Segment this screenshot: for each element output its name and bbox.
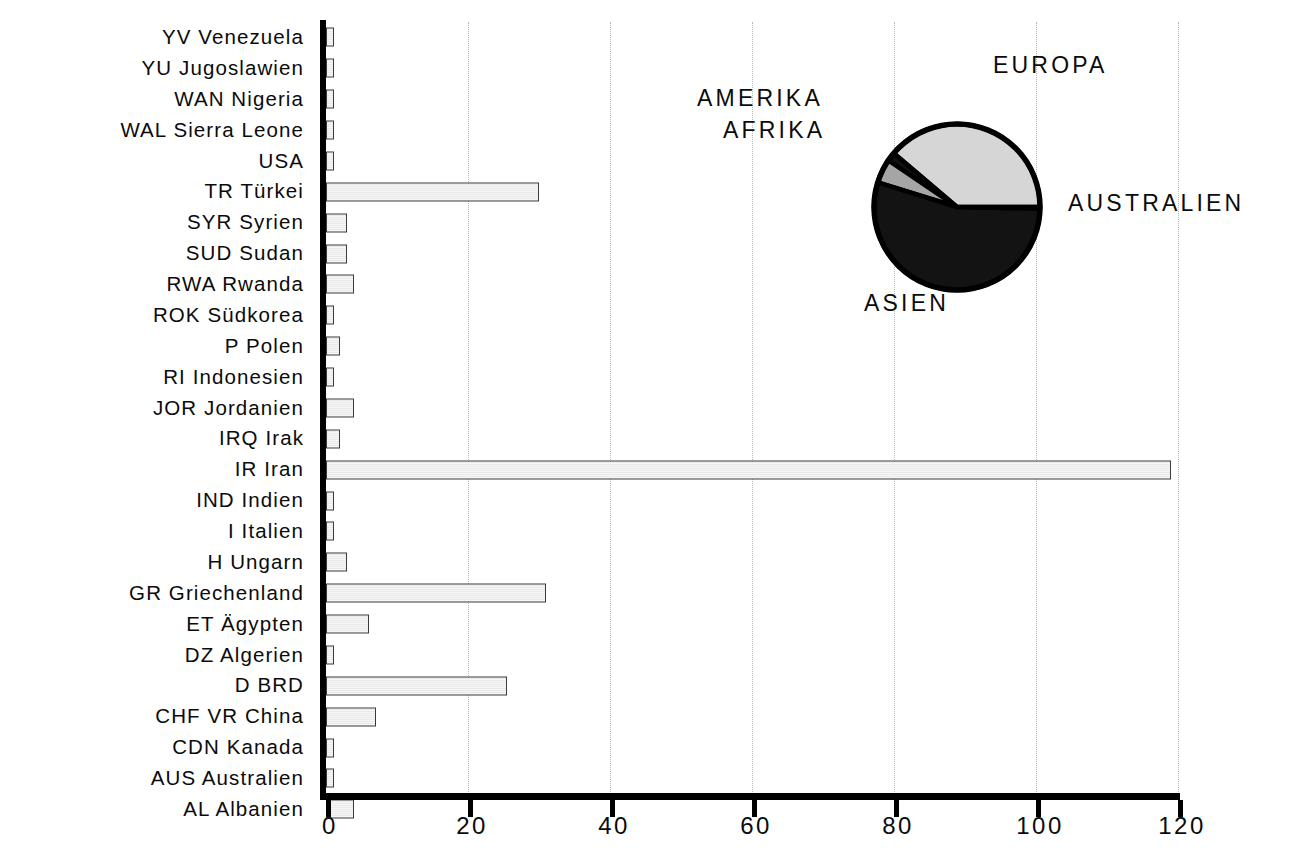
bar bbox=[326, 151, 334, 170]
category-label: WAN Nigeria bbox=[0, 84, 308, 115]
category-label: WAL Sierra Leone bbox=[0, 115, 308, 146]
category-label: TR Türkei bbox=[0, 176, 308, 207]
x-tick-label: 100 bbox=[1016, 812, 1064, 840]
bar-row bbox=[326, 362, 1178, 393]
bar-row bbox=[326, 732, 1178, 763]
bar bbox=[326, 769, 334, 788]
category-label: SUD Sudan bbox=[0, 238, 308, 269]
bar bbox=[326, 59, 334, 78]
bar-row bbox=[326, 331, 1178, 362]
category-label: AL Albanien bbox=[0, 794, 308, 825]
bar bbox=[326, 553, 347, 572]
pie-label-amerika: AMERIKA bbox=[697, 85, 823, 112]
bar bbox=[326, 738, 334, 757]
bar-row bbox=[326, 423, 1178, 454]
bar-row bbox=[326, 701, 1178, 732]
x-tick-label: 0 bbox=[322, 812, 338, 840]
category-label: IR Iran bbox=[0, 454, 308, 485]
bar-row bbox=[326, 763, 1178, 794]
category-label: YU Jugoslawien bbox=[0, 53, 308, 84]
bar-row bbox=[326, 609, 1178, 640]
x-tick-label: 40 bbox=[598, 812, 630, 840]
bar-row bbox=[326, 393, 1178, 424]
category-label: JOR Jordanien bbox=[0, 393, 308, 424]
x-tick-label: 80 bbox=[882, 812, 914, 840]
pie-label-afrika: AFRIKA bbox=[723, 117, 825, 144]
category-label: H Ungarn bbox=[0, 547, 308, 578]
category-label: USA bbox=[0, 146, 308, 177]
bar bbox=[326, 275, 354, 294]
category-label: CDN Kanada bbox=[0, 732, 308, 763]
category-label: AUS Australien bbox=[0, 763, 308, 794]
pie-chart-svg bbox=[862, 112, 1052, 302]
category-label: ROK Südkorea bbox=[0, 300, 308, 331]
bar bbox=[326, 676, 507, 695]
category-label: SYR Syrien bbox=[0, 207, 308, 238]
gridline bbox=[1178, 22, 1179, 794]
pie-label-australien: AUSTRALIEN bbox=[1068, 190, 1244, 217]
category-label: IRQ Irak bbox=[0, 423, 308, 454]
bar bbox=[326, 491, 334, 510]
y-axis-line bbox=[320, 20, 326, 796]
category-label: RWA Rwanda bbox=[0, 269, 308, 300]
category-axis-labels: YV VenezuelaYU JugoslawienWAN NigeriaWAL… bbox=[0, 22, 308, 794]
pie-label-europa: EUROPA bbox=[993, 52, 1108, 79]
bar bbox=[326, 213, 347, 232]
category-label: I Italien bbox=[0, 516, 308, 547]
bar bbox=[326, 429, 340, 448]
chart-canvas: YV VenezuelaYU JugoslawienWAN NigeriaWAL… bbox=[0, 0, 1306, 868]
pie-chart bbox=[862, 112, 1052, 302]
bar bbox=[326, 306, 334, 325]
pie-label-asien: ASIEN bbox=[864, 290, 949, 317]
bar bbox=[326, 121, 334, 140]
bar bbox=[326, 645, 334, 664]
category-label: IND Indien bbox=[0, 485, 308, 516]
x-tick-label: 20 bbox=[456, 812, 488, 840]
bar bbox=[326, 522, 334, 541]
bar-row bbox=[326, 485, 1178, 516]
bar bbox=[326, 244, 347, 263]
category-label: RI Indonesien bbox=[0, 362, 308, 393]
category-label: CHF VR China bbox=[0, 701, 308, 732]
bar bbox=[326, 460, 1171, 479]
bar-row bbox=[326, 300, 1178, 331]
bar-row bbox=[326, 454, 1178, 485]
bar bbox=[326, 28, 334, 47]
bar bbox=[326, 615, 369, 634]
bar bbox=[326, 337, 340, 356]
bar-row bbox=[326, 547, 1178, 578]
category-label: D BRD bbox=[0, 670, 308, 701]
x-tick-label: 120 bbox=[1158, 812, 1206, 840]
category-label: ET Ägypten bbox=[0, 609, 308, 640]
x-axis-line bbox=[320, 793, 1180, 800]
x-tick-label: 60 bbox=[740, 812, 772, 840]
bar-row bbox=[326, 578, 1178, 609]
category-label: P Polen bbox=[0, 331, 308, 362]
bar bbox=[326, 398, 354, 417]
bar bbox=[326, 584, 546, 603]
category-label: DZ Algerien bbox=[0, 640, 308, 671]
category-label: YV Venezuela bbox=[0, 22, 308, 53]
bar-row bbox=[326, 640, 1178, 671]
bar-row bbox=[326, 516, 1178, 547]
bar bbox=[326, 182, 539, 201]
category-label: GR Griechenland bbox=[0, 578, 308, 609]
bar-row bbox=[326, 670, 1178, 701]
bar-row bbox=[326, 22, 1178, 53]
pie-slice-australien bbox=[957, 207, 1040, 209]
bar bbox=[326, 707, 376, 726]
bar bbox=[326, 90, 334, 109]
bar bbox=[326, 368, 334, 387]
